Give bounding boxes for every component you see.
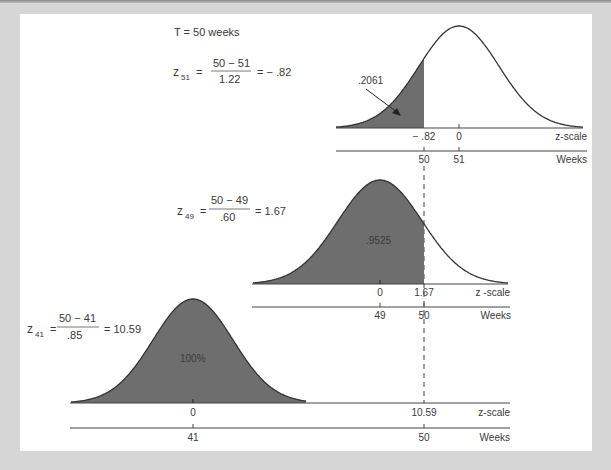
svg-text:0: 0 (190, 407, 196, 418)
z-tick: 0 (456, 131, 462, 142)
week-tick: 50 (418, 154, 430, 165)
svg-text:41: 41 (187, 432, 199, 443)
formula-denominator: .85 (67, 329, 82, 341)
svg-text:=: = (200, 205, 206, 217)
svg-text:49: 49 (185, 212, 194, 221)
area-label: 100% (180, 353, 206, 364)
area-label: .9525 (366, 235, 391, 246)
formula-result: = 10.59 (104, 323, 141, 335)
formula-result: = − .82 (257, 66, 291, 78)
weeks-axis-label: Weeks (480, 432, 510, 443)
area-label: .2061 (358, 75, 383, 86)
svg-text:50: 50 (418, 310, 430, 321)
svg-text:1.67: 1.67 (414, 287, 434, 298)
svg-text:50: 50 (418, 432, 430, 443)
week-tick: 51 (453, 154, 465, 165)
svg-text:=: = (50, 323, 56, 335)
panel-z41: z 41 = 50 − 41 .85 = 10.59 100% 0 10.59 … (27, 299, 510, 443)
formula-denominator: .60 (220, 211, 235, 223)
svg-text:41: 41 (35, 330, 44, 339)
formula-z41: z 41 = 50 − 41 .85 = 10.59 (27, 312, 141, 341)
panel-z49: z 49 = 50 − 49 .60 = 1.67 .9525 0 1.67 z… (177, 180, 511, 321)
formula-numerator: 50 − 41 (59, 312, 96, 324)
svg-text:49: 49 (374, 310, 386, 321)
formula-sub: 51 (181, 73, 190, 82)
formula-var: z (173, 65, 179, 79)
weeks-axis-label: Weeks (557, 154, 587, 165)
z-tick: − .82 (413, 131, 436, 142)
normal-curves-diagram: T = 50 weeks z 51 = 50 − 51 1.22 = − .82… (0, 0, 611, 470)
z-axis-label: z-scale (555, 131, 587, 142)
shaded-area (336, 58, 424, 128)
formula-numerator: 50 − 49 (211, 194, 248, 206)
formula-numerator: 50 − 51 (213, 57, 250, 69)
formula-z49: z 49 = 50 − 49 .60 = 1.67 (177, 194, 286, 223)
svg-text:z: z (27, 322, 33, 336)
z-axis-label: z -scale (476, 287, 511, 298)
svg-text:10.59: 10.59 (411, 407, 436, 418)
panel-z51: T = 50 weeks z 51 = 50 − 51 1.22 = − .82… (173, 26, 587, 165)
formula-result: = 1.67 (255, 205, 286, 217)
svg-text:z: z (177, 204, 183, 218)
formula-z51: z 51 = 50 − 51 1.22 = − .82 (173, 57, 291, 85)
header-text: T = 50 weeks (174, 26, 240, 38)
svg-text:0: 0 (377, 287, 383, 298)
shaded-area (253, 180, 424, 284)
z-axis-label: z-scale (478, 407, 510, 418)
weeks-axis-label: Weeks (481, 310, 511, 321)
formula-denominator: 1.22 (219, 73, 240, 85)
svg-text:=: = (196, 66, 202, 78)
